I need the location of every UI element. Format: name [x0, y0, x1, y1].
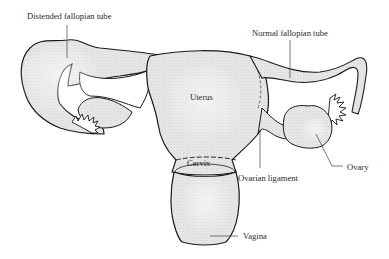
diagram-canvas: Distended fallopian tube Normal fallopia…	[0, 0, 389, 259]
distended-fallopian-tube	[20, 40, 160, 134]
label-cervix: Cervix	[187, 159, 210, 168]
anatomy-illustration	[0, 0, 389, 259]
vagina	[171, 172, 239, 245]
uterus	[147, 51, 269, 175]
label-ovarian-ligament: Ovarian ligament	[238, 174, 298, 183]
label-uterus: Uterus	[190, 93, 213, 102]
ovary	[283, 106, 332, 149]
label-normal-fallopian-tube: Normal fallopian tube	[252, 29, 328, 38]
label-ovary: Ovary	[347, 163, 368, 172]
label-vagina: Vagina	[243, 232, 267, 241]
label-distended-fallopian-tube: Distended fallopian tube	[27, 12, 111, 21]
